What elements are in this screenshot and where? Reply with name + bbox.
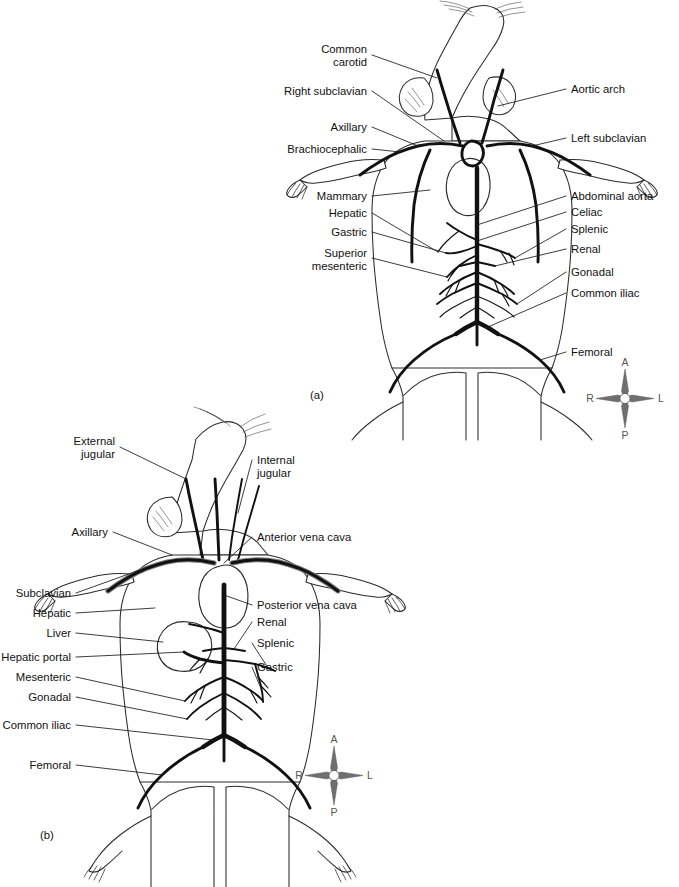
compass-b-west: R [295, 769, 303, 781]
label-right-subclavian: Right subclavian [284, 85, 367, 97]
label-gonadal: Gonadal [571, 266, 614, 278]
label-liver: Liver [47, 627, 72, 639]
label-gonadal: Gonadal [28, 691, 71, 703]
label-internal-jugular-2: jugular [256, 467, 291, 479]
label-renal: Renal [571, 243, 601, 255]
label-superior-mesenteric: Superior [324, 247, 367, 259]
figure-b-venous-system: External jugular Axillary Subclavian Hep… [0, 405, 679, 887]
label-axillary: Axillary [72, 526, 109, 538]
label-common-carotid: Common [321, 43, 367, 55]
label-celiac: Celiac [571, 206, 603, 218]
label-axillary: Axillary [331, 121, 368, 133]
figure-a-right-labels: Aortic arch Left subclavian Abdominal ao… [571, 83, 654, 358]
label-internal-jugular: Internal [257, 454, 295, 466]
label-common-iliac: Common iliac [3, 719, 72, 731]
label-mesenteric: Mesenteric [16, 671, 72, 683]
compass-b-east: L [367, 769, 373, 781]
label-hepatic: Hepatic [329, 207, 368, 219]
label-femoral: Femoral [571, 346, 612, 358]
label-anterior-vena-cava: Anterior vena cava [257, 531, 352, 543]
label-external-jugular: External [74, 435, 115, 447]
compass-b-south: P [330, 806, 337, 818]
compass-a-west: R [586, 392, 594, 404]
label-common-carotid-2: carotid [333, 56, 367, 68]
label-gastric: Gastric [257, 661, 293, 673]
figure-a-caption: (a) [310, 389, 324, 401]
label-superior-mesenteric-2: mesenteric [312, 260, 368, 272]
figure-a-arterial-system: Common carotid Right subclavian Axillary… [0, 0, 679, 440]
label-subclavian: Subclavian [16, 587, 71, 599]
label-hepatic-portal: Hepatic portal [1, 651, 71, 663]
figure-b-caption: (b) [40, 829, 54, 841]
label-left-subclavian: Left subclavian [571, 132, 646, 144]
compass-a-east: L [658, 392, 664, 404]
label-common-iliac: Common iliac [571, 287, 640, 299]
label-external-jugular-2: jugular [80, 448, 115, 460]
label-aortic-arch: Aortic arch [571, 83, 625, 95]
page-bleed-artifact [0, 856, 679, 887]
rat-body-outline-b [35, 407, 406, 887]
compass-b-north: A [330, 733, 337, 745]
label-brachiocephalic: Brachiocephalic [287, 143, 367, 155]
label-splenic: Splenic [571, 223, 608, 235]
label-abdominal-aorta: Abdominal aorta [571, 190, 654, 202]
label-gastric: Gastric [331, 226, 367, 238]
liver [157, 622, 212, 672]
figure-a-left-labels: Common carotid Right subclavian Axillary… [284, 43, 367, 272]
label-renal: Renal [257, 616, 287, 628]
label-femoral: Femoral [30, 759, 71, 771]
label-posterior-vena-cava: Posterior vena cava [257, 599, 358, 611]
compass-a-north: A [621, 356, 628, 368]
label-splenic: Splenic [257, 637, 294, 649]
label-mammary: Mammary [317, 190, 368, 202]
figure-b-left-labels: External jugular Axillary Subclavian Hep… [1, 435, 115, 771]
heart [446, 158, 490, 215]
label-hepatic: Hepatic [33, 607, 72, 619]
